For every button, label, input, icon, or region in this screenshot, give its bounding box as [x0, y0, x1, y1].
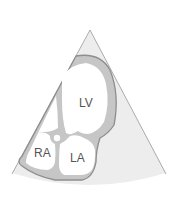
label-ra: RA — [34, 146, 51, 160]
label-lv: LV — [79, 96, 93, 110]
label-la: LA — [70, 151, 85, 165]
echo-diagram: LV RA LA — [0, 0, 178, 197]
right-ventricle-cavity — [38, 96, 58, 133]
crux-circle — [54, 135, 60, 141]
